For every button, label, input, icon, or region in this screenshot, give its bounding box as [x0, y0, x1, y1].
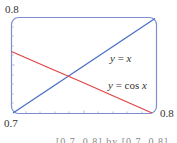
x-axis-right-label: 0.8 [160, 108, 174, 119]
annotation-y-equals-x: y = x [110, 53, 132, 64]
annotation-x: x [127, 52, 132, 64]
annotation-y-equals-cos-x: y = cos x [108, 80, 147, 91]
line-y-equals-x [13, 19, 155, 114]
x-axis-left-label: 0.7 [4, 118, 18, 129]
annotation-eq: = cos [113, 79, 142, 91]
plot-area [0, 0, 177, 143]
y-axis-top-label: 0.8 [5, 4, 19, 15]
annotation-x: x [142, 79, 147, 91]
annotation-eq: = [115, 52, 127, 64]
window-caption: [0.7, 0.8] by [0.7, 0.8] [56, 136, 168, 143]
